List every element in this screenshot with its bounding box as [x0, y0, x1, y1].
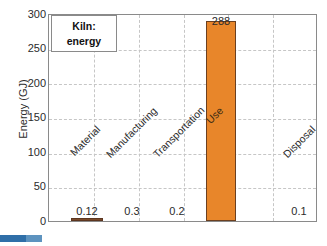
y-tick-100: 100 [0, 147, 46, 158]
gridline-h-50 [49, 188, 316, 189]
y-tick-200: 200 [0, 78, 46, 89]
legend-line-1: Kiln: [72, 19, 95, 34]
legend-line-2: energy [67, 34, 101, 49]
gridline-v-5 [273, 15, 274, 221]
value-label-use: 288 [212, 15, 230, 27]
gridline-h-100 [49, 154, 316, 155]
y-tick-50: 50 [0, 181, 46, 192]
gridline-h-200 [49, 84, 316, 85]
value-label-material: 0.12 [76, 205, 97, 217]
legend-box: Kiln: energy [51, 15, 117, 52]
chart-screenshot: Energy (GJ) 300 250 200 150 100 50 0 0.1… [0, 0, 327, 246]
ui-fragment-bar [0, 235, 26, 242]
ui-fragment-bar-secondary [26, 235, 42, 242]
y-tick-150: 150 [0, 112, 46, 123]
value-label-manufacturing: 0.3 [124, 205, 139, 217]
y-tick-250: 250 [0, 43, 46, 54]
bar-material[interactable] [71, 218, 103, 221]
value-label-transportation: 0.2 [169, 205, 184, 217]
y-tick-300: 300 [0, 9, 46, 20]
y-tick-0: 0 [0, 216, 46, 227]
value-label-disposal: 0.1 [291, 205, 306, 217]
y-axis-tick-labels: 300 250 200 150 100 50 0 [0, 0, 46, 246]
plot-area: 0.12 0.3 0.2 288 0.1 Material Manufactur… [48, 14, 317, 222]
